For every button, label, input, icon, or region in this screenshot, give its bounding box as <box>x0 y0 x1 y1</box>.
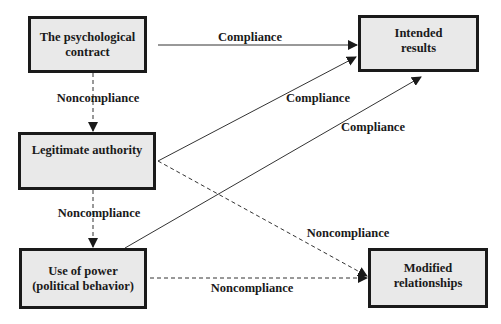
edge-legit-to-modified <box>158 161 367 276</box>
node-label-line1: The psychological <box>40 30 136 45</box>
edge-legit-to-intended <box>158 57 356 161</box>
node-label-line1: Legitimate authority <box>32 143 143 158</box>
edge-label-legit-to-intended: Compliance <box>286 91 350 106</box>
node-label-line2: contract <box>40 45 136 60</box>
edge-label-psych-to-intended: Compliance <box>218 30 282 45</box>
edge-label-legit-to-power: Noncompliance <box>58 206 141 221</box>
edge-power-to-intended <box>125 77 421 248</box>
node-modified-relationships: Modified relationships <box>368 248 488 308</box>
edge-label-power-to-intended: Compliance <box>341 120 405 135</box>
node-label-line2: (political behavior) <box>32 279 134 294</box>
edge-label-power-to-modified: Noncompliance <box>211 281 294 296</box>
node-psychological-contract: The psychological contract <box>28 16 147 73</box>
node-label-line2: results <box>395 41 443 56</box>
node-use-of-power: Use of power (political behavior) <box>19 248 147 309</box>
node-label-line1: Use of power <box>32 264 134 279</box>
edge-label-legit-to-modified: Noncompliance <box>307 226 390 241</box>
node-intended-results: Intended results <box>358 15 479 72</box>
node-label-line1: Modified <box>394 261 463 276</box>
edge-label-psych-to-legit: Noncompliance <box>57 91 140 106</box>
node-label-line1: Intended <box>395 26 443 41</box>
node-label-line2: relationships <box>394 276 463 291</box>
node-legitimate-authority: Legitimate authority <box>18 132 156 190</box>
